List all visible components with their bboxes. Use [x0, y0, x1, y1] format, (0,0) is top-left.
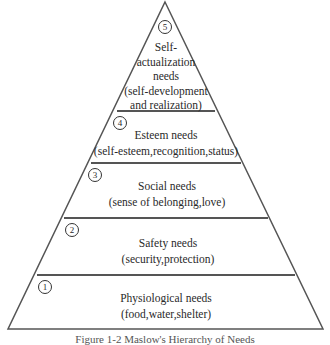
level-4-label: Esteem needs (self-esteem,recognition,st… — [90, 127, 242, 159]
level-3-detail: (sense of belonging,love) — [65, 194, 269, 210]
level-5-line-4: (self-development — [100, 84, 232, 99]
level-3-title: Social needs — [65, 178, 269, 194]
level-2-label: Safety needs (security,protection) — [40, 235, 296, 267]
level-3-label: Social needs (sense of belonging,love) — [65, 178, 269, 210]
level-5-line-3: needs — [100, 69, 232, 84]
level-4-detail: (self-esteem,recognition,status) — [90, 143, 242, 159]
level-5-label: Self- actualization needs (self-developm… — [100, 40, 232, 113]
level-1-detail: (food,water,shelter) — [10, 306, 322, 322]
level-2-detail: (security,protection) — [40, 251, 296, 267]
level-5-line-2: actualization — [100, 55, 232, 70]
level-1-label: Physiological needs (food,water,shelter) — [10, 290, 322, 322]
level-4-title: Esteem needs — [90, 127, 242, 143]
level-5-line-1: Self- — [100, 40, 232, 55]
level-5-line-5: and realization) — [100, 98, 232, 113]
level-1-title: Physiological needs — [10, 290, 322, 306]
level-2-title: Safety needs — [40, 235, 296, 251]
figure-caption: Figure 1-2 Maslow's Hierarchy of Needs — [0, 333, 330, 345]
level-5-number-badge: 5 — [158, 20, 172, 34]
